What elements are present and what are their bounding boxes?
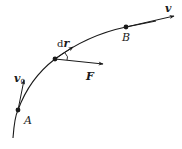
point-a-label: A (23, 114, 32, 127)
v0-label: v0 (14, 72, 25, 86)
trajectory-diagram: A v0 dr F B v (0, 0, 182, 149)
dr-label: dr (57, 37, 70, 50)
trajectory-curve (13, 21, 156, 138)
force-arrow (55, 59, 103, 64)
point-b-label: B (121, 31, 130, 44)
v-label: v (165, 2, 172, 15)
v-arrow (126, 16, 174, 27)
angle-arc (65, 53, 68, 60)
force-label: F (85, 70, 95, 83)
